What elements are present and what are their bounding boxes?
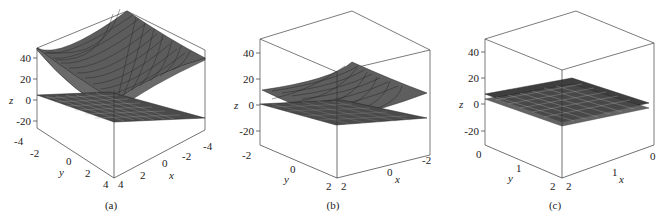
x-tick: 0 xyxy=(162,157,168,169)
plot-a: 40 20 0 -20 z -4 -2 0 2 4 y 4 2 0 -2 -4 … xyxy=(0,0,222,221)
x-tick: 4 xyxy=(118,178,124,190)
y-tick: 0 xyxy=(476,148,482,160)
x-axis-label: x xyxy=(618,173,624,185)
y-tick: -2 xyxy=(30,147,39,159)
x-tick: 0 xyxy=(650,150,656,162)
x-tick: -4 xyxy=(203,140,213,152)
y-tick: -2 xyxy=(242,149,251,161)
z-tick: 20 xyxy=(243,73,255,85)
x-tick: -2 xyxy=(422,154,431,166)
x-tick: 2 xyxy=(566,180,572,192)
y-tick: -4 xyxy=(14,135,24,147)
x-tick: -2 xyxy=(182,150,191,162)
z-axis-label: z xyxy=(8,94,14,106)
z-tick: -20 xyxy=(239,125,254,137)
caption-a: (a) xyxy=(0,199,222,211)
z-axis-label: z xyxy=(233,99,239,111)
y-tick: 2 xyxy=(550,180,556,192)
plot-c: 40 20 0 -20 z 0 1 2 y 2 1 0 x xyxy=(444,0,666,221)
y-tick: 4 xyxy=(103,178,109,190)
x-axis-label: x xyxy=(394,173,400,185)
x-tick: 2 xyxy=(341,180,347,192)
z-tick: 0 xyxy=(474,98,480,110)
z-tick: 20 xyxy=(468,72,480,84)
panel-a: 40 20 0 -20 z -4 -2 0 2 4 y 4 2 0 -2 -4 … xyxy=(0,0,222,221)
y-tick: 2 xyxy=(326,180,332,192)
x-tick: 2 xyxy=(140,169,146,181)
z-tick: -20 xyxy=(16,115,31,127)
y-tick: 0 xyxy=(290,163,296,175)
caption-b: (b) xyxy=(222,199,444,211)
y-tick: 0 xyxy=(66,155,72,167)
z-tick: 40 xyxy=(468,46,480,58)
y-axis-label: y xyxy=(283,173,289,185)
z-tick: 0 xyxy=(249,99,255,111)
x-axis-label: x xyxy=(168,169,174,181)
y-axis-label: y xyxy=(507,172,513,184)
panel-b: 40 20 0 -20 z -2 0 2 y 2 0 -2 x (b) xyxy=(222,0,444,221)
z-tick: 0 xyxy=(26,94,32,106)
z-tick: 40 xyxy=(20,52,32,64)
y-axis-label: y xyxy=(58,166,64,178)
x-tick: 0 xyxy=(387,166,393,178)
panel-c: 40 20 0 -20 z 0 1 2 y 2 1 0 x (c) xyxy=(444,0,666,221)
caption-c: (c) xyxy=(444,199,666,211)
z-tick: 20 xyxy=(20,73,32,85)
plot-b: 40 20 0 -20 z -2 0 2 y 2 0 -2 x xyxy=(222,0,444,221)
z-tick: -20 xyxy=(464,125,479,137)
y-tick: 1 xyxy=(516,162,522,174)
y-tick: 2 xyxy=(85,167,91,179)
z-tick: 40 xyxy=(243,47,255,59)
x-tick: 1 xyxy=(612,166,618,178)
z-axis-label: z xyxy=(458,98,464,110)
